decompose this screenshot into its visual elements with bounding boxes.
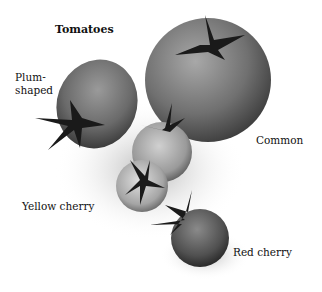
label-common: Common — [256, 134, 303, 146]
label-plum-line1: Plum- — [15, 71, 46, 83]
label-plum-line2: shaped — [15, 84, 53, 96]
tomatoes-illustration: Tomatoes Plum- shaped Common Yellow cher… — [0, 0, 322, 292]
red-cherry-tomato — [171, 209, 229, 267]
label-red-cherry: Red cherry — [233, 246, 292, 258]
figure-title: Tomatoes — [55, 24, 114, 36]
label-yellow-cherry: Yellow cherry — [22, 200, 94, 212]
